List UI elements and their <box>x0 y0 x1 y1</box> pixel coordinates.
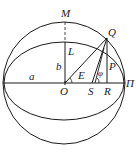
label-L: L <box>67 45 74 57</box>
label-R: R <box>103 85 111 97</box>
label-Pi: Π <box>125 77 135 89</box>
angle-arc-E <box>70 78 72 83</box>
label-Q: Q <box>108 26 116 38</box>
label-P: P <box>108 60 116 72</box>
upper-ellipse-arc <box>4 42 124 83</box>
label-b: b <box>56 60 62 72</box>
label-S: S <box>88 85 94 97</box>
label-O: O <box>60 85 68 97</box>
label-M: M <box>60 7 71 19</box>
angle-arc-phi <box>97 78 99 83</box>
ellipsoid-diagram: M Q L b a E P φ O S R Π <box>0 0 136 160</box>
label-phi: φ <box>98 68 103 78</box>
label-E: E <box>77 69 85 81</box>
label-a: a <box>29 70 35 82</box>
